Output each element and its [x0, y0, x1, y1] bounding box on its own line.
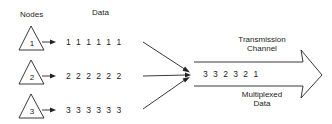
multiplexing-diagram: Nodes Data 1 2 3 1 1 1 1 1 1 2 2 2 2 2 2…: [0, 0, 332, 124]
nodes-header: Nodes: [20, 10, 43, 19]
data-header: Data: [92, 8, 109, 17]
multiplexed-label-line1: Multiplexed: [222, 90, 302, 99]
node-1-label: 1: [27, 39, 37, 48]
node-1-data: 1 1 1 1 1 1: [66, 37, 121, 47]
multiplexed-label: Multiplexed Data: [222, 90, 302, 108]
channel-label: Transmission Channel: [222, 35, 302, 53]
node-3-data: 3 3 3 3 3 3: [66, 105, 121, 115]
node-2-data: 2 2 2 2 2 2: [66, 71, 121, 81]
multiplexed-sequence: 3 3 2 3 2 1: [203, 69, 258, 79]
node-3-label: 3: [27, 107, 37, 116]
node-2-label: 2: [27, 73, 37, 82]
channel-label-line1: Transmission: [222, 35, 302, 44]
channel-label-line2: Channel: [222, 44, 302, 53]
multiplexed-label-line2: Data: [222, 99, 302, 108]
